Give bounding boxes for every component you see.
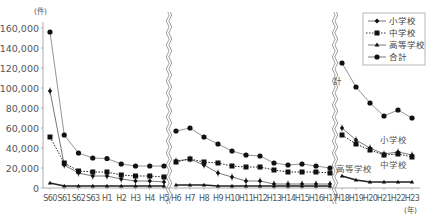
- x-tick-label: H5: [159, 194, 169, 203]
- data-point: [381, 113, 386, 118]
- data-point: [90, 170, 95, 175]
- axis-breaks: [166, 12, 338, 204]
- data-point: [216, 161, 221, 166]
- x-tick-label: H14: [281, 194, 296, 203]
- line-chart: 020,00040,00060,00080,000100,000120,0001…: [0, 0, 428, 218]
- annotation-elementary: 小学校: [380, 135, 407, 145]
- data-point: [76, 150, 81, 155]
- data-point: [230, 164, 235, 169]
- data-point: [62, 132, 67, 137]
- svg-text:中学校: 中学校: [389, 28, 416, 38]
- data-point: [62, 161, 67, 166]
- x-tick-label: S61: [58, 194, 72, 203]
- y-tick-label: 0: [33, 183, 39, 194]
- x-tick-label: H15: [295, 194, 310, 203]
- legend: 小学校 中学校 高等学校 合計: [363, 13, 425, 65]
- y-axis-unit: (件): [34, 6, 47, 16]
- x-tick-label: H21: [377, 194, 392, 203]
- data-point: [340, 133, 345, 138]
- data-point: [133, 174, 138, 179]
- x-tick-label: H11: [239, 194, 254, 203]
- annotation-high-school: 高等学校: [336, 164, 372, 174]
- x-tick-label: H2: [116, 194, 126, 203]
- x-tick-label: H6: [171, 194, 181, 203]
- svg-text:合計: 合計: [389, 52, 407, 62]
- data-point: [187, 125, 192, 130]
- data-point: [243, 152, 248, 157]
- x-tick-label: H20: [363, 194, 378, 203]
- x-tick-label: H4: [145, 194, 155, 203]
- x-tick-label: H13: [267, 194, 282, 203]
- data-point: [395, 107, 400, 112]
- data-point: [314, 170, 319, 175]
- annotation-junior-high: 中学校: [380, 160, 407, 170]
- data-point: [90, 155, 95, 160]
- y-tick-label: 40,000: [6, 143, 39, 154]
- data-point: [340, 174, 344, 178]
- data-point: [133, 163, 138, 168]
- x-tick-label: H7: [185, 194, 195, 203]
- data-point: [286, 170, 291, 175]
- x-tick-label: H8: [199, 194, 209, 203]
- data-point: [354, 142, 359, 147]
- x-tick-label: H9: [213, 194, 223, 203]
- chart-canvas: 020,00040,00060,00080,000100,000120,0001…: [0, 0, 428, 218]
- data-point: [47, 29, 52, 34]
- data-point: [353, 84, 358, 89]
- data-point: [327, 165, 332, 170]
- data-point: [201, 134, 206, 139]
- circle-marker-icon: [374, 54, 379, 59]
- data-point: [174, 160, 179, 165]
- y-tick-label: 20,000: [6, 163, 39, 174]
- x-tick-label: H19: [349, 194, 364, 203]
- y-tick-label: 140,000: [0, 43, 39, 54]
- data-point: [367, 100, 372, 105]
- data-point: [162, 175, 167, 180]
- y-tick-label: 120,000: [0, 63, 39, 74]
- data-point: [258, 165, 263, 170]
- data-point: [76, 169, 81, 174]
- data-point: [244, 165, 249, 170]
- data-point: [368, 148, 373, 153]
- data-point: [119, 173, 124, 178]
- data-point: [271, 160, 276, 165]
- series-total: [47, 29, 414, 170]
- square-marker-icon: [375, 31, 380, 36]
- data-point: [339, 60, 344, 65]
- data-point: [300, 170, 305, 175]
- annotation-total: 計: [333, 76, 342, 86]
- x-tick-label: S60: [43, 194, 57, 203]
- x-tick-label: H16: [309, 194, 324, 203]
- x-tick-label: H23: [405, 194, 420, 203]
- data-point: [173, 128, 178, 133]
- data-point: [410, 155, 415, 160]
- data-point: [285, 162, 290, 167]
- data-point: [161, 163, 166, 168]
- x-tick-label: H10: [225, 194, 240, 203]
- data-point: [147, 163, 152, 168]
- y-tick-label: 80,000: [6, 103, 39, 114]
- data-point: [257, 153, 262, 158]
- data-point: [328, 171, 333, 176]
- data-point: [313, 163, 318, 168]
- y-axis: 020,00040,00060,00080,000100,000120,0001…: [0, 22, 43, 194]
- data-point: [48, 135, 53, 140]
- data-point: [299, 161, 304, 166]
- data-point: [104, 156, 109, 161]
- y-tick-label: 60,000: [6, 123, 39, 134]
- data-point: [105, 170, 110, 175]
- data-point: [119, 161, 124, 166]
- x-tick-label: H18: [335, 194, 350, 203]
- y-tick-label: 100,000: [0, 83, 39, 94]
- data-point: [272, 168, 277, 173]
- y-tick-label: 160,000: [0, 23, 39, 34]
- data-point: [215, 141, 220, 146]
- data-point: [147, 174, 152, 179]
- svg-text:小学校: 小学校: [389, 16, 416, 26]
- annotations: 計 小学校 中学校 高等学校: [333, 76, 407, 174]
- data-point: [188, 157, 193, 162]
- x-tick-label: S63: [86, 194, 100, 203]
- data-point: [382, 153, 387, 158]
- data-point: [229, 148, 234, 153]
- x-tick-label: H1: [102, 194, 112, 203]
